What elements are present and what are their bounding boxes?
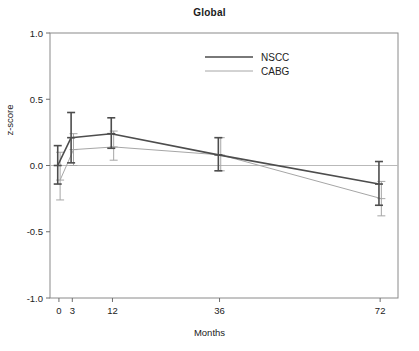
y-axis-tick-label: 1.0	[30, 28, 43, 39]
y-axis-tick-label: 0.0	[30, 160, 43, 171]
chart-figure: Global z-score Months 1.00.50.0-0.5-1.00…	[0, 0, 419, 351]
x-axis-tick-label: 3	[70, 305, 75, 316]
y-axis-tick-label: 0.5	[30, 94, 43, 105]
x-axis-tick-label: 12	[107, 305, 118, 316]
y-axis-tick-label: -1.0	[27, 293, 43, 304]
x-axis-tick-label: 0	[56, 305, 61, 316]
plot-area: 1.00.50.0-0.5-1.003123672NSCCCABG	[0, 0, 419, 351]
legend-label-cabg: CABG	[261, 66, 290, 77]
x-axis-tick-label: 72	[375, 305, 386, 316]
x-axis-tick-label: 36	[214, 305, 225, 316]
legend-label-nscc: NSCC	[261, 52, 289, 63]
y-axis-tick-label: -0.5	[27, 226, 43, 237]
